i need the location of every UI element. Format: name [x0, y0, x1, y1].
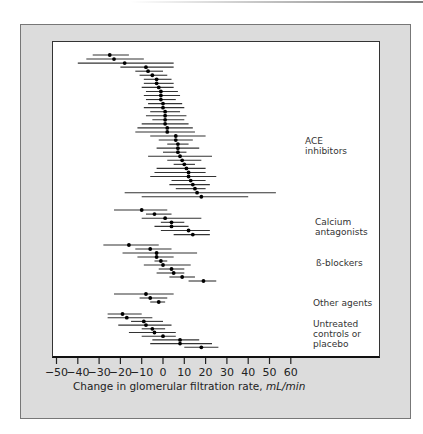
point-estimate	[153, 212, 157, 216]
group-label-beta-blockers: ß-blockers	[316, 258, 363, 268]
point-estimate	[165, 126, 169, 130]
point-estimate	[161, 106, 165, 110]
point-estimate	[155, 81, 159, 85]
point-estimate	[174, 138, 178, 142]
x-tick-label: −10	[130, 366, 153, 379]
x-tick-label: 50	[263, 366, 277, 379]
point-estimate	[159, 98, 163, 102]
group-label-ace-inhibitors: ACE inhibitors	[305, 136, 347, 156]
point-estimate	[187, 229, 191, 233]
x-tick-label: 60	[284, 366, 298, 379]
point-estimate	[142, 320, 146, 324]
point-estimate	[159, 90, 163, 94]
point-estimate	[178, 338, 182, 342]
point-estimate	[161, 334, 165, 338]
point-estimate	[180, 275, 184, 279]
x-tick-label: 30	[220, 366, 234, 379]
x-axis: −50−40−30−20−100102030405060	[45, 358, 298, 379]
point-estimate	[176, 146, 180, 150]
group-label-untreated: Untreated controls or placebo	[313, 319, 361, 349]
study-rows	[78, 53, 276, 349]
point-estimate	[178, 342, 182, 346]
point-estimate	[199, 195, 203, 199]
point-estimate	[150, 73, 154, 77]
point-estimate	[112, 57, 116, 61]
point-estimate	[153, 331, 157, 335]
point-estimate	[191, 183, 195, 187]
x-tick-label: −20	[109, 366, 132, 379]
point-estimate	[161, 263, 165, 267]
point-estimate	[146, 69, 150, 73]
point-estimate	[148, 247, 152, 251]
point-estimate	[163, 114, 167, 118]
x-tick-label: −40	[66, 366, 89, 379]
x-tick-label: −30	[87, 366, 110, 379]
point-estimate	[155, 255, 159, 259]
point-estimate	[178, 154, 182, 158]
point-estimate	[163, 216, 167, 220]
point-estimate	[163, 122, 167, 126]
point-estimate	[182, 162, 186, 166]
point-estimate	[140, 208, 144, 212]
x-tick-label: 0	[160, 366, 167, 379]
point-estimate	[144, 292, 148, 296]
point-estimate	[108, 53, 112, 57]
point-estimate	[180, 158, 184, 162]
point-estimate	[187, 171, 191, 175]
point-estimate	[189, 179, 193, 183]
point-estimate	[121, 312, 125, 316]
point-estimate	[127, 243, 131, 247]
point-estimate	[176, 142, 180, 146]
point-estimate	[202, 279, 206, 283]
group-label-other-agents: Other agents	[313, 298, 372, 308]
point-estimate	[185, 167, 189, 171]
point-estimate	[195, 191, 199, 195]
x-tick-label: −50	[45, 366, 68, 379]
point-estimate	[170, 225, 174, 229]
point-estimate	[161, 102, 165, 106]
point-estimate	[155, 77, 159, 81]
x-tick-label: 40	[241, 366, 255, 379]
point-estimate	[148, 296, 152, 300]
point-estimate	[170, 267, 174, 271]
point-estimate	[150, 327, 154, 331]
point-estimate	[157, 86, 161, 90]
point-estimate	[176, 150, 180, 154]
point-estimate	[159, 94, 163, 98]
point-estimate	[187, 175, 191, 179]
point-estimate	[144, 65, 148, 69]
group-label-calcium-antagonists: Calcium antagonists	[315, 217, 368, 237]
point-estimate	[199, 345, 203, 349]
point-estimate	[123, 61, 127, 65]
point-estimate	[172, 271, 176, 275]
point-estimate	[144, 323, 148, 327]
point-estimate	[165, 130, 169, 134]
x-tick-label: 20	[199, 366, 213, 379]
point-estimate	[163, 118, 167, 122]
x-tick-label: 10	[177, 366, 191, 379]
point-estimate	[191, 233, 195, 237]
point-estimate	[193, 187, 197, 191]
point-estimate	[170, 220, 174, 224]
point-estimate	[159, 259, 163, 263]
point-estimate	[157, 300, 161, 304]
point-estimate	[125, 316, 129, 320]
point-estimate	[174, 134, 178, 138]
point-estimate	[155, 251, 159, 255]
x-axis-label: Change in glomerular filtration rate, mL…	[73, 380, 305, 392]
point-estimate	[163, 110, 167, 114]
